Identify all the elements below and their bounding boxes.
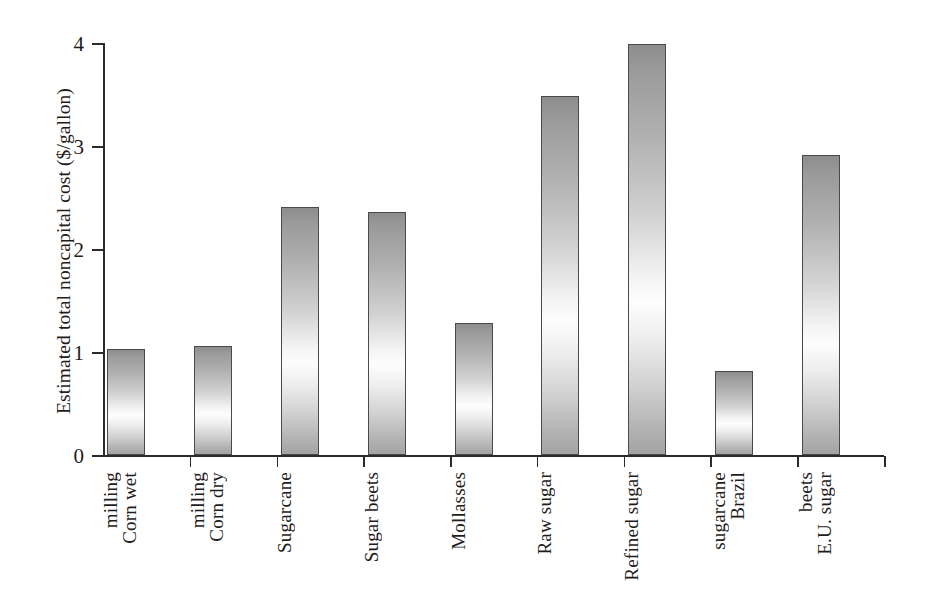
x-axis-label-line: Corn dry xyxy=(207,472,226,542)
bar xyxy=(541,96,579,455)
x-axis-label-line: Refined sugar xyxy=(622,472,641,581)
x-axis-label: Corn drymilling xyxy=(188,472,240,612)
x-axis-label: Raw sugar xyxy=(535,472,587,612)
x-axis-label-line: milling xyxy=(188,472,207,528)
x-axis-label: Sugarcane xyxy=(275,472,327,612)
bar xyxy=(107,349,145,455)
x-axis-label-line: Mollasses xyxy=(449,472,468,550)
y-tick-2: 2 xyxy=(92,249,103,251)
x-axis-label-line: beets xyxy=(796,472,815,512)
y-tick-1: 1 xyxy=(92,352,103,354)
y-tick-3: 3 xyxy=(92,146,103,148)
bar-chart: Estimated total noncapital cost ($/gallo… xyxy=(0,0,926,613)
x-axis-label: Mollasses xyxy=(449,472,501,612)
x-axis-label-line: Brazil xyxy=(728,472,747,520)
y-axis-title: Estimated total noncapital cost ($/gallo… xyxy=(53,41,75,461)
bar xyxy=(368,212,406,455)
y-tick-0: 0 xyxy=(92,455,103,457)
x-tick-1 xyxy=(190,456,192,467)
bar xyxy=(802,155,840,455)
x-tick-4 xyxy=(450,456,452,467)
y-tick-label: 1 xyxy=(74,342,85,363)
x-tick-5 xyxy=(537,456,539,467)
y-tick-label: 3 xyxy=(74,136,85,157)
x-axis-line xyxy=(103,455,884,457)
x-axis-label-line: Sugar beets xyxy=(362,472,381,562)
x-axis-label-line: Corn wet xyxy=(120,472,139,544)
x-axis-label-line: Sugarcane xyxy=(275,472,294,553)
x-axis-label-line: milling xyxy=(101,472,120,528)
y-tick-label: 0 xyxy=(74,445,85,466)
bar xyxy=(194,346,232,455)
x-tick-2 xyxy=(277,456,279,467)
bar xyxy=(455,323,493,455)
x-tick-6 xyxy=(624,456,626,467)
x-tick-3 xyxy=(363,456,365,467)
plot-area xyxy=(103,43,884,455)
x-axis-label-line: Raw sugar xyxy=(535,472,554,555)
bar xyxy=(281,207,319,455)
x-tick-7 xyxy=(710,456,712,467)
x-tick-8 xyxy=(797,456,799,467)
x-axis-label: Brazilsugarcane xyxy=(709,472,761,612)
x-axis-label: E.U. sugarbeets xyxy=(796,472,848,612)
x-axis-label: Sugar beets xyxy=(362,472,414,612)
x-axis-label: Corn wetmilling xyxy=(101,472,153,612)
bar xyxy=(628,44,666,455)
x-axis-label: Refined sugar xyxy=(622,472,674,612)
x-axis-label-line: E.U. sugar xyxy=(815,472,834,555)
y-tick-label: 4 xyxy=(74,33,85,54)
x-axis-label-line: sugarcane xyxy=(709,472,728,550)
y-tick-label: 2 xyxy=(74,239,85,260)
y-tick-4: 4 xyxy=(92,43,103,45)
x-tick-9 xyxy=(884,456,886,467)
bar xyxy=(715,371,753,455)
